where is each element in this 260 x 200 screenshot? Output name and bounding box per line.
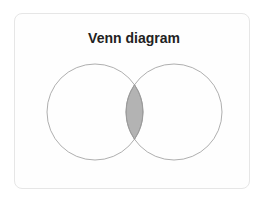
venn-diagram (0, 0, 260, 200)
intersection-region (126, 85, 143, 140)
